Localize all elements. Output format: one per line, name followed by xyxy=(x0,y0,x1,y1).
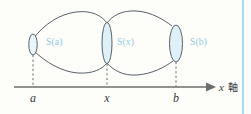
tick-label-a: a xyxy=(30,91,36,105)
tick-label-x: x xyxy=(103,91,110,105)
tick-label-b: b xyxy=(173,91,179,105)
section-label-b: S(b) xyxy=(190,37,207,48)
cross-section-ellipse-b xyxy=(170,25,183,62)
section-label-x: S(x) xyxy=(117,37,134,48)
figure-container: S(a) S(x) S(b) a x b x 軸 xyxy=(0,0,251,114)
cross-section-ellipse-a xyxy=(29,34,37,55)
cross-section-ellipse-x xyxy=(102,23,112,64)
x-axis-label-variable: x xyxy=(218,81,224,93)
x-axis-label-kanji: 軸 xyxy=(228,81,238,93)
section-label-a: S(a) xyxy=(46,37,63,48)
solid-of-revolution-figure: S(a) S(x) S(b) a x b x 軸 xyxy=(0,0,251,114)
x-axis-arrowhead xyxy=(206,83,216,92)
